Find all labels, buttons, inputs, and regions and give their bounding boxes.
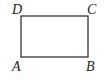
vertex-label-a: A: [11, 59, 21, 74]
vertex-label-c: C: [87, 2, 97, 17]
vertex-label-d: D: [11, 2, 22, 17]
rectangle-abcd: [21, 16, 88, 57]
rectangle-diagram: A B C D: [0, 0, 104, 80]
vertex-label-b: B: [86, 59, 95, 74]
